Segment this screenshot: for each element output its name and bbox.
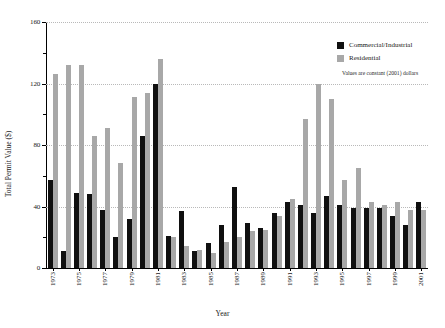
y-tick-label: 0 <box>37 264 40 272</box>
y-tick-label: 160 <box>30 18 40 26</box>
bar-residential <box>184 246 189 268</box>
x-tick-mark <box>53 268 54 271</box>
bar-group <box>217 22 230 268</box>
x-tick-mark <box>263 268 264 271</box>
legend-label: Residential <box>349 54 381 62</box>
x-tick-mark <box>184 268 185 271</box>
bar-group <box>125 22 138 268</box>
bar-group <box>323 22 336 268</box>
bar-residential <box>118 163 123 268</box>
legend: Commercial/IndustrialResidential <box>337 41 412 67</box>
legend-label: Commercial/Industrial <box>349 41 412 49</box>
bar-residential <box>316 84 321 269</box>
x-tick-label: 1985 <box>207 272 215 286</box>
bar-group <box>244 22 257 268</box>
bar-residential <box>342 180 347 268</box>
bar-residential <box>171 237 176 268</box>
y-axis-title: Total Permit Value ($) <box>4 131 13 198</box>
bar-group <box>59 22 72 268</box>
x-tick-label: 1977 <box>101 272 109 286</box>
bar-residential <box>369 202 374 268</box>
legend-swatch-residential <box>337 55 344 62</box>
x-tick-mark <box>316 268 317 271</box>
bar-residential <box>395 202 400 268</box>
x-tick-label: 1973 <box>49 272 57 286</box>
x-tick-label: 2001 <box>417 272 425 286</box>
bar-residential <box>237 237 242 268</box>
bar-residential <box>66 65 71 268</box>
bar-residential <box>356 168 361 268</box>
bar-residential <box>224 242 229 268</box>
bar-residential <box>53 74 58 268</box>
bar-residential <box>250 231 255 268</box>
x-tick-mark <box>369 268 370 271</box>
x-tick-mark <box>342 268 343 271</box>
bar-group <box>270 22 283 268</box>
y-tick-label: 40 <box>33 203 40 211</box>
x-tick-label: 1997 <box>365 272 373 286</box>
bar-residential <box>382 205 387 268</box>
bar-residential <box>197 250 202 268</box>
bar-group <box>72 22 85 268</box>
bar-residential <box>132 97 137 268</box>
x-tick-label: 1975 <box>75 272 83 286</box>
x-axis-title: Year <box>0 309 445 318</box>
x-tick-label: 1993 <box>312 272 320 286</box>
bar-residential <box>211 253 216 268</box>
legend-item: Residential <box>337 54 412 62</box>
bar-residential <box>408 210 413 268</box>
bar-residential <box>145 93 150 268</box>
bar-group <box>138 22 151 268</box>
x-tick-mark <box>105 268 106 271</box>
bar-residential <box>329 99 334 268</box>
bar-group <box>86 22 99 268</box>
x-tick-mark <box>237 268 238 271</box>
bar-group <box>283 22 296 268</box>
x-tick-mark <box>211 268 212 271</box>
x-tick-mark <box>395 268 396 271</box>
bar-group <box>191 22 204 268</box>
bar-residential <box>105 128 110 268</box>
y-tick-mark <box>42 268 46 269</box>
x-tick-label: 1979 <box>128 272 136 286</box>
bar-residential <box>263 230 268 268</box>
x-tick-label: 1983 <box>180 272 188 286</box>
x-tick-label: 1999 <box>391 272 399 286</box>
y-tick-label: 120 <box>30 80 40 88</box>
bar-group <box>309 22 322 268</box>
bar-group <box>112 22 125 268</box>
x-tick-label: 1981 <box>154 272 162 286</box>
bar-group <box>230 22 243 268</box>
bar-group <box>99 22 112 268</box>
x-tick-mark <box>79 268 80 271</box>
bar-group <box>178 22 191 268</box>
bar-group <box>46 22 59 268</box>
bar-residential <box>277 216 282 268</box>
x-tick-label: 1995 <box>338 272 346 286</box>
x-tick-label: 1991 <box>286 272 294 286</box>
bar-residential <box>421 210 426 268</box>
bar-group <box>151 22 164 268</box>
bar-group <box>165 22 178 268</box>
bar-residential <box>290 199 295 268</box>
bar-group <box>415 22 428 268</box>
legend-note: Values are constant (2001) dollars <box>342 70 418 76</box>
bar-chart: Total Permit Value ($) Year 04080120160 … <box>0 0 445 328</box>
bar-residential <box>79 65 84 268</box>
x-tick-mark <box>158 268 159 271</box>
bar-residential <box>158 59 163 268</box>
x-tick-label: 1987 <box>233 272 241 286</box>
bar-residential <box>92 136 97 268</box>
bar-group <box>296 22 309 268</box>
bar-group <box>257 22 270 268</box>
x-tick-label: 1989 <box>259 272 267 286</box>
x-tick-mark <box>290 268 291 271</box>
legend-item: Commercial/Industrial <box>337 41 412 49</box>
x-tick-mark <box>132 268 133 271</box>
x-tick-mark <box>421 268 422 271</box>
bar-residential <box>303 119 308 268</box>
bar-group <box>204 22 217 268</box>
legend-swatch-commercial <box>337 42 344 49</box>
y-tick-label: 80 <box>33 141 40 149</box>
